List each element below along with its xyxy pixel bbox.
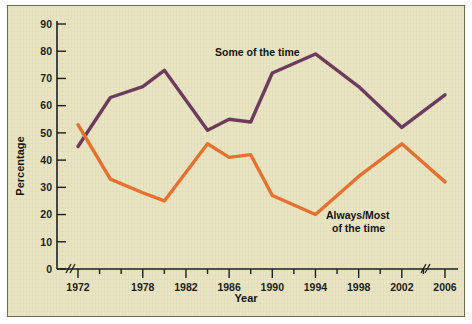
x-axis-ticks: 197219781982198619901994199820022006 bbox=[66, 269, 457, 293]
x-tick-label: 2006 bbox=[433, 281, 457, 293]
y-tick-label: 50 bbox=[40, 127, 52, 139]
y-tick-label: 0 bbox=[46, 263, 52, 275]
y-tick-label: 80 bbox=[40, 45, 52, 57]
annotation-always-most-line1: Always/Most bbox=[326, 209, 390, 221]
y-tick-label: 20 bbox=[40, 208, 52, 220]
chart-plate: Percentage 0102030405060708090 197219781… bbox=[7, 5, 465, 317]
series-line-always-most-of-the-time bbox=[78, 125, 445, 215]
x-axis-title: Year bbox=[234, 292, 258, 304]
x-tick-label: 1994 bbox=[304, 281, 328, 293]
annotation-always-most-line2: of the time bbox=[332, 222, 385, 234]
y-tick-label: 10 bbox=[40, 236, 52, 248]
y-axis-title-group: Percentage bbox=[14, 136, 26, 195]
x-tick-label: 1990 bbox=[261, 281, 285, 293]
y-tick-label: 40 bbox=[40, 154, 52, 166]
x-tick-label: 1998 bbox=[347, 281, 371, 293]
x-tick-label: 1972 bbox=[66, 281, 90, 293]
y-tick-label: 30 bbox=[40, 181, 52, 193]
y-axis-ticks: 0102030405060708090 bbox=[40, 18, 66, 275]
line-chart-svg: Percentage 0102030405060708090 197219781… bbox=[8, 6, 465, 317]
y-tick-label: 60 bbox=[40, 99, 52, 111]
x-tick-label: 1982 bbox=[174, 281, 198, 293]
annotation-some-of-the-time: Some of the time bbox=[215, 46, 300, 58]
y-axis-title: Percentage bbox=[14, 136, 26, 195]
x-tick-label: 2002 bbox=[390, 281, 414, 293]
chart-figure: Percentage 0102030405060708090 197219781… bbox=[0, 0, 472, 324]
y-tick-label: 70 bbox=[40, 72, 52, 84]
y-tick-label: 90 bbox=[40, 18, 52, 30]
x-tick-label: 1978 bbox=[131, 281, 155, 293]
series-line-some-of-the-time bbox=[78, 54, 445, 147]
